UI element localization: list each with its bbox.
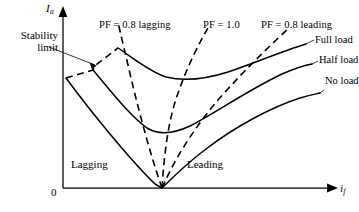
y-axis-arrowhead	[59, 6, 68, 17]
y-axis-label-subscript: a	[50, 7, 54, 16]
lagging-region-label: Lagging	[71, 158, 108, 170]
stability-limit-curve	[66, 48, 118, 78]
stability-limit-label-line2: limit	[0, 41, 58, 53]
origin-label: 0	[51, 186, 57, 198]
pf-08-leading-curve	[162, 27, 290, 188]
load-label-leaders-group	[306, 40, 324, 93]
y-axis-label: Ia	[46, 2, 53, 15]
pf-08-lagging-curve	[118, 22, 162, 188]
pf-08-lagging-label: PF = 0.8 lagging	[99, 19, 171, 31]
full-load-curve	[118, 44, 306, 79]
leading-region-label: Leading	[187, 158, 223, 170]
stability-limit-group	[66, 48, 118, 78]
stability-limit-label-line1: Stability	[0, 29, 58, 41]
pf-10-label: PF = 1.0	[203, 19, 240, 31]
half-load-curve	[93, 64, 312, 133]
no-load-leader-line	[320, 90, 324, 93]
stability-limit-label: Stability limit	[0, 29, 58, 54]
x-axis-label: if	[340, 182, 345, 195]
half-load-leader-line	[312, 61, 318, 64]
full-load-leader-line	[306, 40, 314, 44]
x-axis-arrowhead	[327, 184, 338, 193]
no-load-label: No load	[325, 75, 359, 87]
full-load-label: Full load	[315, 34, 353, 46]
pf-08-leading-label: PF = 0.8 leading	[261, 19, 332, 31]
half-load-label: Half load	[319, 54, 358, 66]
